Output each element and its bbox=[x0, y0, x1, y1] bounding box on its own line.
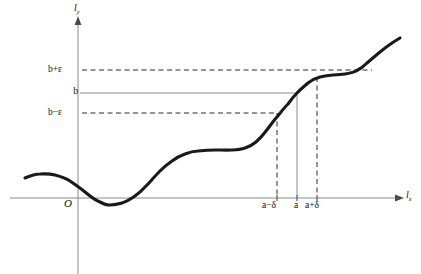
origin-label: O bbox=[64, 198, 72, 209]
diagram-canvas bbox=[0, 0, 421, 274]
x-tick-label-a-minus-delta: a−δ bbox=[262, 201, 276, 211]
y-axis-label: ly bbox=[74, 3, 80, 16]
y-tick-label-b: b bbox=[48, 87, 78, 97]
x-tick-label-a-plus-delta: a+δ bbox=[305, 201, 319, 211]
y-tick-label-b-minus-epsilon: b−ε bbox=[48, 108, 78, 118]
x-axis-label-subscript: x bbox=[409, 195, 412, 202]
x-tick-label-a: a bbox=[294, 201, 298, 211]
limit-diagram-figure: ly lx O b+ε b b−ε a−δ a a+δ bbox=[0, 0, 421, 274]
function-curve bbox=[25, 38, 400, 205]
x-axis-arrowhead bbox=[395, 195, 404, 202]
y-tick-label-b-plus-epsilon: b+ε bbox=[48, 65, 78, 75]
y-axis-arrowhead bbox=[75, 16, 82, 25]
x-axis-label: lx bbox=[406, 190, 412, 203]
y-axis-label-subscript: y bbox=[77, 8, 80, 15]
